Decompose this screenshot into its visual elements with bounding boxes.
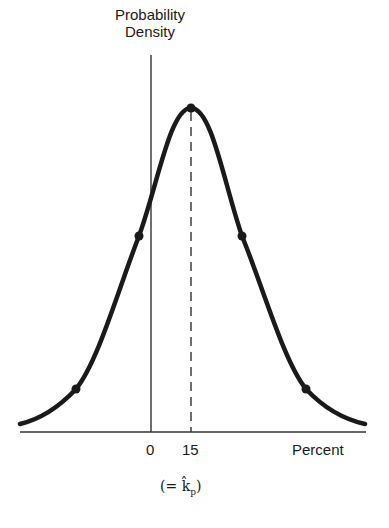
- y-axis-label-line1: Probability: [70, 6, 230, 23]
- y-axis-label: Probability Density: [70, 6, 230, 40]
- y-axis-label-line2: Density: [70, 23, 230, 40]
- x-axis-label: Percent: [292, 441, 344, 458]
- mean-annotation: (= k̂p): [160, 478, 201, 497]
- annotation-close: ): [196, 478, 201, 494]
- density-curve: [20, 108, 365, 424]
- peak-point: [187, 104, 196, 113]
- inflection-right-point: [238, 232, 247, 241]
- annotation-text: (= k̂: [160, 478, 190, 494]
- normal-distribution-chart: Probability Density 0 15 Percent (= k̂p): [0, 0, 389, 528]
- inflection-left-point: [135, 232, 144, 241]
- tail-left-point: [72, 385, 81, 394]
- tail-right-point: [302, 385, 311, 394]
- x-tick-0: 0: [146, 441, 154, 458]
- x-tick-15: 15: [182, 441, 199, 458]
